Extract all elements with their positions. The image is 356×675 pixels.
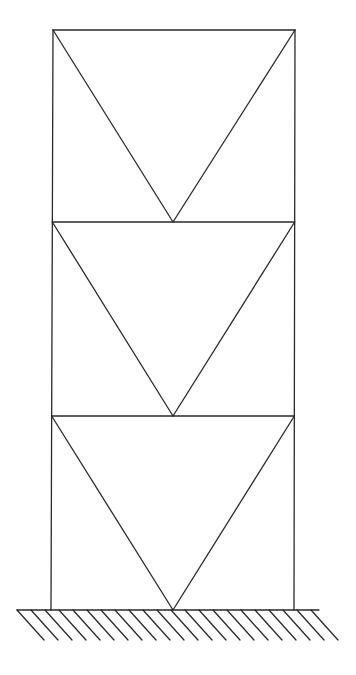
columns — [51, 30, 295, 610]
ground-hatch — [227, 610, 254, 640]
ground-hatch — [143, 610, 170, 640]
ground-hatch — [115, 610, 142, 640]
ground-hatch — [87, 610, 114, 640]
ground-hatch — [31, 610, 58, 640]
left-column — [51, 30, 53, 610]
right-column — [294, 30, 295, 610]
ground-hatch — [17, 610, 44, 640]
fixed-ground-support — [17, 610, 338, 640]
story-3-left-brace — [53, 30, 173, 222]
ground-hatch — [241, 610, 268, 640]
ground-hatch — [101, 610, 128, 640]
story-1-left-brace — [52, 416, 173, 610]
ground-hatch — [283, 610, 310, 640]
story-2-right-brace — [173, 222, 295, 416]
ground-hatch — [185, 610, 212, 640]
ground-hatch — [269, 610, 296, 640]
braced-frame-diagram — [0, 0, 356, 675]
chevron-braces — [52, 30, 295, 610]
ground-hatch — [129, 610, 156, 640]
story-1-right-brace — [173, 416, 294, 610]
ground-hatch — [213, 610, 240, 640]
ground-hatch — [311, 610, 338, 640]
ground-hatch — [199, 610, 226, 640]
ground-hatch — [73, 610, 100, 640]
story-3-right-brace — [173, 30, 295, 222]
ground-hatch — [59, 610, 86, 640]
frame-drawing — [0, 0, 356, 675]
story-2-left-brace — [52, 222, 173, 416]
ground-hatch — [297, 610, 324, 640]
ground-hatch — [255, 610, 282, 640]
ground-hatch — [157, 610, 184, 640]
ground-hatch — [45, 610, 72, 640]
ground-hatch — [171, 610, 198, 640]
